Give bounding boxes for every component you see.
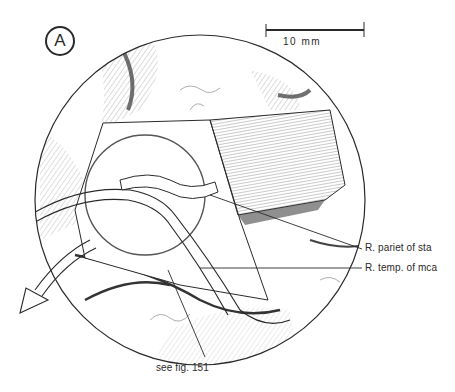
scale-bar bbox=[266, 22, 364, 37]
illustration-canvas bbox=[0, 0, 455, 392]
callout-see-fig: see fig. 151 bbox=[156, 362, 209, 373]
panel-label: A bbox=[45, 26, 75, 56]
callout-pariet: R. pariet of sta bbox=[365, 242, 432, 253]
surgical-illustration: A 10 mm R. pariet of sta R. temp. of mca… bbox=[0, 0, 455, 392]
scale-bar-label: 10 mm bbox=[283, 36, 321, 47]
operative-field bbox=[30, 30, 370, 370]
callout-temp: R. temp. of mca bbox=[365, 262, 437, 273]
